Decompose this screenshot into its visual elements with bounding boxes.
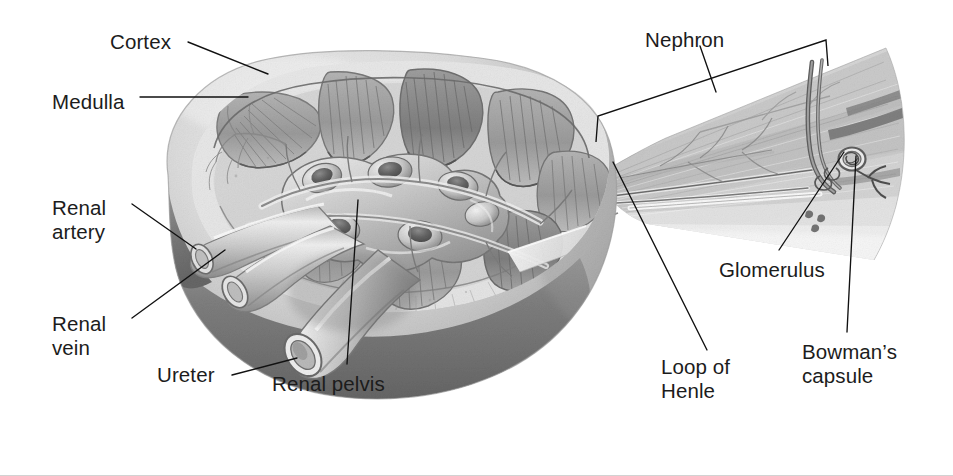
label-loop-of-henle: Loop of Henle	[661, 355, 730, 402]
kidney-illustration	[0, 0, 953, 476]
nephron-wedge-group	[587, 46, 906, 268]
label-renal-artery: Renal artery	[52, 196, 106, 243]
label-medulla: Medulla	[52, 90, 125, 113]
cortex-leader	[188, 42, 268, 74]
label-bowmans-capsule: Bowman’s capsule	[802, 340, 897, 387]
label-renal-vein: Renal vein	[52, 312, 106, 359]
label-renal-pelvis: Renal pelvis	[272, 372, 385, 395]
kidney-body-group	[156, 51, 670, 423]
nephron-leader	[700, 46, 716, 92]
label-nephron: Nephron	[645, 28, 724, 51]
label-ureter: Ureter	[157, 363, 215, 386]
label-cortex: Cortex	[110, 30, 171, 53]
glomerulus-structure	[839, 148, 866, 171]
label-glomerulus: Glomerulus	[719, 258, 825, 281]
kidney-anatomy-figure: Cortex Medulla Renal artery Renal vein U…	[0, 0, 953, 476]
